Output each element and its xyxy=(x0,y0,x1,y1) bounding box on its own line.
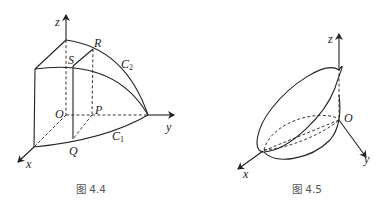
point-r-label: R xyxy=(93,36,102,50)
z-axis-label: z xyxy=(54,15,60,29)
point-o-label: O xyxy=(55,107,64,121)
edge-r-p-hidden xyxy=(92,49,93,115)
point-o-label: O xyxy=(344,111,353,125)
point-s-label: S xyxy=(68,53,74,67)
curve-c1 xyxy=(34,115,148,147)
x-axis-label: x xyxy=(25,157,32,171)
x-axis-hidden xyxy=(263,120,339,151)
x-axis-label: x xyxy=(242,167,249,181)
y-axis xyxy=(339,120,366,157)
diagram-canvas: z y x R S O P Q C2 C1 图 4.4 z O y x 图 4.… xyxy=(0,0,383,206)
top-curve xyxy=(35,67,148,115)
figure-4-4: z y x R S O P Q C2 C1 图 4.4 xyxy=(18,15,174,195)
left-vertical-edge xyxy=(34,69,35,147)
figure-4-4-caption: 图 4.4 xyxy=(76,183,106,195)
curve-c2-label: C2 xyxy=(121,57,133,72)
y-axis-label: y xyxy=(363,152,370,166)
point-q-label: Q xyxy=(69,144,78,158)
figure-4-5: z O y x 图 4.5 xyxy=(238,32,370,195)
curve-c2 xyxy=(66,40,148,115)
curve-c1-label: C1 xyxy=(112,129,124,144)
z-axis-label: z xyxy=(327,32,333,46)
top-edge-left xyxy=(35,40,66,69)
edge-p-q-hidden xyxy=(73,115,92,139)
y-axis-label: y xyxy=(165,120,172,134)
figure-4-5-caption: 图 4.5 xyxy=(292,183,322,195)
edge-r-s xyxy=(73,49,93,66)
rim-ellipse xyxy=(257,66,342,152)
x-axis xyxy=(238,151,263,169)
point-p-label: P xyxy=(94,103,103,117)
